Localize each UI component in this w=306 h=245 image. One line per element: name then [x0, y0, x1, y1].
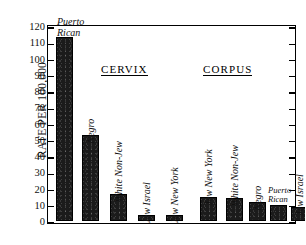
- y-tick-label: 120: [19, 22, 45, 33]
- bar-label: Negro: [86, 119, 97, 144]
- y-tick-label: 80: [19, 87, 45, 98]
- bar: [82, 135, 99, 221]
- bar-label: White Non-Jew: [230, 145, 241, 206]
- y-tick-label: 110: [19, 38, 45, 49]
- chart-figure: RATE PER 100,000 12011010090807060504030…: [0, 0, 305, 245]
- y-tick-label: 0: [19, 217, 45, 228]
- y-tick-label: 40: [19, 152, 45, 163]
- group-heading-cervix: CERVIX: [101, 63, 148, 76]
- y-tick-label: 10: [19, 201, 45, 212]
- y-tick-label: 30: [19, 168, 45, 179]
- bar-label: Jew New York: [204, 149, 215, 205]
- y-tick-label: 50: [19, 136, 45, 147]
- bar-label: Negro: [253, 186, 264, 211]
- bar: [270, 205, 287, 221]
- y-tick-label: 70: [19, 103, 45, 114]
- bar-label: Jew Israel: [295, 174, 306, 215]
- bar-label: PuertoRican: [268, 186, 291, 204]
- plot-area: PuertoRicanNegroWhite Non-JewJew IsraelJ…: [47, 25, 296, 224]
- y-tick-label: 60: [19, 119, 45, 130]
- y-tick-label: 100: [19, 54, 45, 65]
- bar-label: PuertoRican: [57, 17, 84, 38]
- group-heading-corpus: CORPUS: [203, 63, 252, 76]
- y-axis-tick-labels: 1201101009080706050403020100: [19, 0, 45, 245]
- bar-label: White Non-Jew: [114, 141, 125, 202]
- bars-layer: PuertoRicanNegroWhite Non-JewJew IsraelJ…: [48, 26, 295, 223]
- bar-label: Jew New York: [170, 167, 181, 223]
- bar-label: Jew Israel: [142, 182, 153, 223]
- y-tick-label: 20: [19, 184, 45, 195]
- bar: [56, 37, 73, 221]
- y-tick-label: 90: [19, 71, 45, 82]
